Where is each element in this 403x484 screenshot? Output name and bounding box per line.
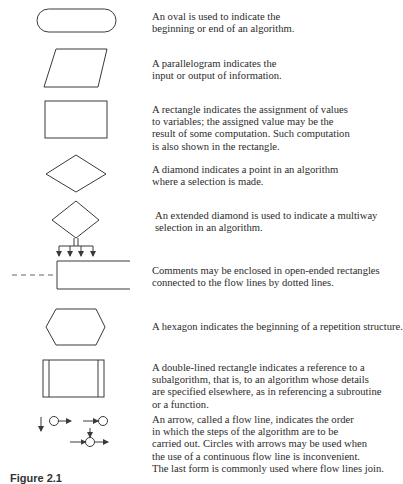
text-line: An extended diamond is used to indicate … xyxy=(155,210,377,222)
double-lined-rectangle-symbol xyxy=(43,360,104,397)
text-line: result of some computation. Such computa… xyxy=(152,128,350,140)
oval-symbol xyxy=(37,9,116,32)
extended-diamond-description: An extended diamond is used to indicate … xyxy=(155,210,377,234)
text-line: An oval is used to indicate the xyxy=(152,11,294,23)
extended-diamond-symbol xyxy=(52,201,99,256)
flow-line-symbols xyxy=(41,417,108,447)
text-line: A hexagon indicates the beginning of a r… xyxy=(152,321,403,333)
text-line: A double-lined rectangle indicates a ref… xyxy=(152,362,381,374)
text-line: or a function. xyxy=(152,399,381,411)
figure-caption: Figure 2.1 xyxy=(10,472,62,484)
double-lined-rectangle-description: A double-lined rectangle indicates a ref… xyxy=(152,362,381,411)
text-line: where a selection is made. xyxy=(152,176,338,188)
text-line: the use of a continuous flow line is inc… xyxy=(152,451,384,463)
text-line: The last form is commonly used where flo… xyxy=(152,463,384,475)
text-line: selection in an algorithm. xyxy=(155,222,377,234)
text-line: connected to the flow lines by dotted li… xyxy=(152,277,380,289)
hexagon-symbol xyxy=(46,309,105,345)
hexagon-description: A hexagon indicates the beginning of a r… xyxy=(152,321,403,333)
text-line: Comments may be enclosed in open-ended r… xyxy=(152,265,380,277)
flow-line-description: An arrow, called a flow line, indicates … xyxy=(152,414,384,475)
text-line: A parallelogram indicates the xyxy=(152,58,282,70)
text-line: to variables; the assigned value may be … xyxy=(152,116,350,128)
text-line: input or output of information. xyxy=(152,70,282,82)
oval-description: An oval is used to indicate the beginnin… xyxy=(152,11,294,35)
diamond-symbol xyxy=(46,155,106,192)
comment-symbol xyxy=(12,261,130,289)
text-line: An arrow, called a flow line, indicates … xyxy=(152,414,384,426)
parallelogram-description: A parallelogram indicates the input or o… xyxy=(152,58,282,82)
comment-description: Comments may be enclosed in open-ended r… xyxy=(152,265,380,289)
diamond-description: A diamond indicates a point in an algori… xyxy=(152,164,338,188)
text-line: beginning or end of an algorithm. xyxy=(152,23,294,35)
parallelogram-symbol xyxy=(44,49,107,87)
text-line: subalgorithm, that is, to an algorithm w… xyxy=(152,374,381,386)
text-line: in which the steps of the algorithm are … xyxy=(152,426,384,438)
text-line: carried out. Circles with arrows may be … xyxy=(152,438,384,450)
text-line: are specified elsewhere, as in referenci… xyxy=(152,386,381,398)
rectangle-description: A rectangle indicates the assignment of … xyxy=(152,104,350,153)
text-line: A rectangle indicates the assignment of … xyxy=(152,104,350,116)
text-line: is also shown in the rectangle. xyxy=(152,141,350,153)
rectangle-symbol xyxy=(45,101,107,138)
text-line: A diamond indicates a point in an algori… xyxy=(152,164,338,176)
